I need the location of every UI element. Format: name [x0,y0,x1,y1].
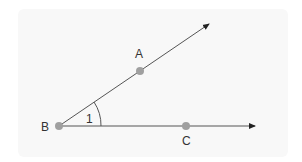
label-c: C [182,134,191,148]
angle-diagram: B A C 1 [0,0,302,162]
point-c [182,122,190,130]
ray-ba [59,24,209,126]
angle-arc [94,102,101,126]
angle-label: 1 [86,112,93,126]
label-b: B [41,120,49,134]
point-b [55,122,63,130]
point-a [136,67,144,75]
label-a: A [135,47,143,61]
